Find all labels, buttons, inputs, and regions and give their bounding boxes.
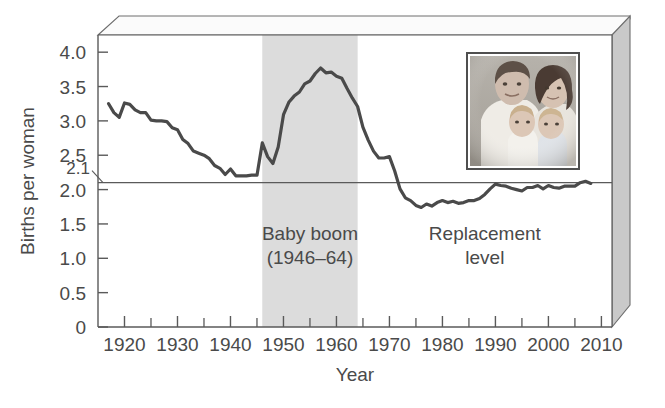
y-tick-label-4.0: 4.0 bbox=[60, 42, 86, 63]
fertility-rate-line-chart: 00.51.01.52.02.53.03.54.0 2.1 1920193019… bbox=[0, 0, 665, 408]
baby-boom-label-line1: Baby boom bbox=[262, 223, 358, 244]
y-tick-label-1.0: 1.0 bbox=[60, 248, 86, 269]
x-tick-label-2000: 2000 bbox=[527, 334, 569, 355]
x-tick-label-1980: 1980 bbox=[421, 334, 463, 355]
x-axis-title: Year bbox=[336, 364, 375, 385]
chart-figure: 00.51.01.52.02.53.03.54.0 2.1 1920193019… bbox=[0, 0, 665, 408]
family-photo-inset bbox=[467, 53, 579, 169]
frame-right-face bbox=[612, 16, 630, 327]
x-tick-label-2010: 2010 bbox=[580, 334, 622, 355]
x-axis-tick-labels: 1920193019401950196019701980199020002010 bbox=[103, 334, 622, 355]
y-axis-title: Births per woman bbox=[17, 107, 38, 255]
frame-top-face bbox=[98, 16, 630, 35]
replacement-level-label-line2: level bbox=[465, 247, 504, 268]
baby-boom-label-line2: (1946–64) bbox=[267, 247, 354, 268]
y-tick-label-0.5: 0.5 bbox=[60, 283, 86, 304]
x-tick-label-1920: 1920 bbox=[103, 334, 145, 355]
y-tick-label-3.0: 3.0 bbox=[60, 111, 86, 132]
x-tick-label-1950: 1950 bbox=[262, 334, 304, 355]
x-tick-label-1970: 1970 bbox=[368, 334, 410, 355]
x-tick-label-1960: 1960 bbox=[315, 334, 357, 355]
x-tick-label-1930: 1930 bbox=[156, 334, 198, 355]
x-tick-label-1940: 1940 bbox=[209, 334, 251, 355]
x-tick-label-1990: 1990 bbox=[474, 334, 516, 355]
y-tick-label-2.0: 2.0 bbox=[60, 180, 86, 201]
y-tick-label-1.5: 1.5 bbox=[60, 214, 86, 235]
y-axis-tick-labels: 00.51.01.52.02.53.03.54.0 bbox=[60, 42, 86, 338]
y-axis-label-2point1: 2.1 bbox=[66, 159, 90, 178]
replacement-level-label-line1: Replacement bbox=[429, 223, 542, 244]
y-tick-label-3.5: 3.5 bbox=[60, 77, 86, 98]
y-tick-label-0: 0 bbox=[75, 317, 86, 338]
